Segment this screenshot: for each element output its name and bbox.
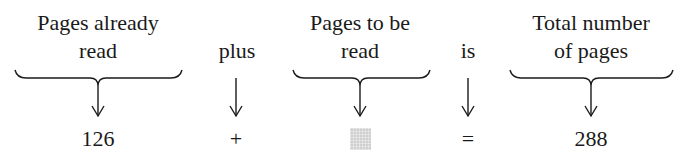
value-total-pages: 288 (575, 126, 608, 152)
label-plus: plus (219, 38, 256, 64)
arrow-down-icon (354, 86, 366, 116)
label-pages-to-be-read-line1: Pages to be (310, 10, 410, 36)
brace-pages-to-be-read (293, 70, 430, 86)
brace-pages-already-read (15, 70, 182, 86)
value-pages-already-read: 126 (82, 126, 115, 152)
operator-equals: = (462, 126, 474, 152)
label-pages-already-read-line1: Pages already (37, 10, 159, 36)
label-total-number-of-pages-line2: of pages (554, 38, 628, 64)
unknown-value-box (350, 128, 371, 150)
operator-plus: + (230, 126, 242, 152)
label-total-number-of-pages-line1: Total number (532, 10, 650, 36)
arrow-down-icon (230, 78, 242, 116)
arrow-down-icon (462, 78, 474, 116)
label-pages-already-read-line2: read (79, 38, 117, 64)
label-is: is (461, 38, 476, 64)
arrow-down-icon (92, 86, 104, 116)
arrow-down-icon (585, 86, 597, 116)
brace-total-number-of-pages (510, 70, 673, 86)
label-pages-to-be-read-line2: read (341, 38, 379, 64)
